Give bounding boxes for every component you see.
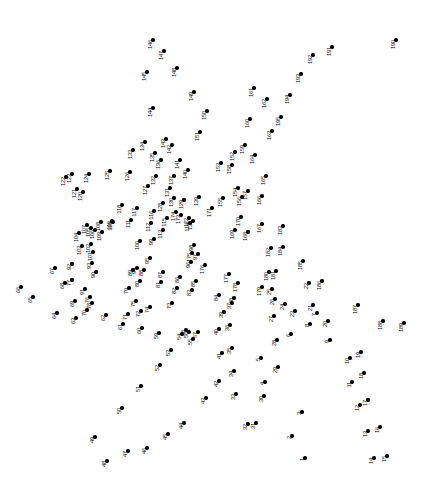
dot-label: 175 [186, 253, 192, 262]
dot-label: 90 [90, 272, 96, 278]
dot-label: 100 [134, 241, 140, 250]
dot-label: 116 [148, 211, 154, 220]
connect-the-dots-canvas: 1234567891011121314151617181920212223242… [0, 0, 426, 482]
dot-label: 186 [316, 281, 322, 290]
dot-label: 72 [135, 311, 141, 317]
dot-label: 78 [86, 303, 92, 309]
dot-label: 155 [217, 198, 223, 207]
dot-label: 146 [147, 40, 153, 49]
dot-label: 14 [368, 458, 374, 464]
dot-label: 46 [141, 448, 147, 454]
dot-label: 55 [187, 339, 193, 345]
dot-label: 181 [270, 271, 276, 280]
dot-label: 134 [139, 142, 145, 151]
dot-label: 137 [168, 176, 174, 185]
dot-label: 38 [228, 298, 234, 304]
dot-label: 145 [141, 72, 147, 81]
dot-label: 101 [87, 252, 93, 261]
dot-label: 107 [81, 225, 87, 234]
dot-label: 15 [381, 456, 387, 462]
dot-label: 69 [69, 301, 75, 307]
dot-label: 99 [148, 239, 154, 245]
dot-label: 165 [260, 176, 266, 185]
dot-label: 148 [171, 68, 177, 77]
dot-label: 161 [248, 88, 254, 97]
dot-label: 131 [164, 188, 170, 197]
dot-label: 44 [178, 423, 184, 429]
dot-label: 104 [73, 233, 79, 242]
dot-label: 153 [215, 163, 221, 172]
dot-label: 79 [123, 288, 129, 294]
dot-label: 130 [168, 198, 174, 207]
dot-label: 194 [284, 95, 290, 104]
dot-label: 164 [249, 155, 255, 164]
dot-label: 23 [289, 311, 295, 317]
dot-label: 142 [166, 145, 172, 154]
dot-label: 87 [157, 272, 163, 278]
dot-label: 30 [258, 396, 264, 402]
dot-label: 40 [213, 329, 219, 335]
dot-label: 70 [81, 310, 87, 316]
dot-label: 53 [165, 350, 171, 356]
dot-label: 4 [259, 382, 265, 385]
dot-label: 119 [107, 222, 113, 231]
dot-label: 75 [130, 301, 136, 307]
dot-label: 177 [223, 274, 229, 283]
dot-label: 8 [304, 324, 310, 327]
dot-label: 35 [226, 348, 232, 354]
dot-label: 82 [171, 288, 177, 294]
dot-label: 147 [158, 51, 164, 60]
dot-label: 62 [100, 315, 106, 321]
dot-label: 144 [147, 108, 153, 117]
dot-label: 180 [263, 272, 269, 281]
dot-label: 140 [182, 170, 188, 179]
dot-label: 1 [299, 458, 305, 461]
dot-label: 17 [362, 400, 368, 406]
dot-label: 73 [166, 303, 172, 309]
dot-label: 2 [286, 436, 292, 439]
dot-label: 86 [174, 277, 180, 283]
dot-label: 106 [89, 230, 95, 239]
dot-label: 139 [193, 197, 199, 206]
dot-label: 154 [232, 188, 238, 197]
dot-label: 52 [154, 365, 160, 371]
dot-label: 170 [235, 217, 241, 226]
dot-label: 31 [250, 423, 256, 429]
dot-label: 92 [66, 264, 72, 270]
dot-label: 60 [136, 328, 142, 334]
dot-label: 159 [239, 145, 245, 154]
dot-label: 167 [256, 224, 262, 233]
dot-label: 88 [138, 270, 144, 276]
dot-label: 169 [229, 230, 235, 239]
dot-label: 24 [279, 304, 285, 310]
dot-label: 26 [269, 299, 275, 305]
dot-label: 47 [122, 451, 128, 457]
dot-label: 58 [180, 330, 186, 336]
dot-label: 67 [49, 268, 55, 274]
dot-label: 191 [326, 47, 332, 56]
dot-label: 95 [144, 258, 150, 264]
dot-label: 85 [190, 281, 196, 287]
dot-label: 128 [157, 203, 163, 212]
dot-label: 121 [71, 189, 77, 198]
dot-label: 125 [104, 171, 110, 180]
dot-label: 20 [322, 321, 328, 327]
dot-label: 174 [170, 212, 176, 221]
dot-label: 59 [153, 333, 159, 339]
dot-label: 51 [135, 386, 141, 392]
dot-label: 112 [145, 223, 151, 232]
dot-label: 103 [76, 246, 82, 255]
dot-label: 22 [303, 283, 309, 289]
dot-label: 192 [307, 55, 313, 64]
dot-label: 93 [86, 263, 92, 269]
dot-label: 149 [188, 92, 194, 101]
dot-label: 188 [377, 321, 383, 330]
dot-label: 80 [134, 281, 140, 287]
dot-label: 190 [390, 40, 396, 49]
dot-label: 193 [295, 74, 301, 83]
dot-label: 157 [242, 191, 248, 200]
dot-label: 172 [183, 218, 189, 227]
dot-label: 184 [277, 247, 283, 256]
dot-label: 97 [192, 254, 198, 260]
dot-label: 91 [79, 289, 85, 295]
